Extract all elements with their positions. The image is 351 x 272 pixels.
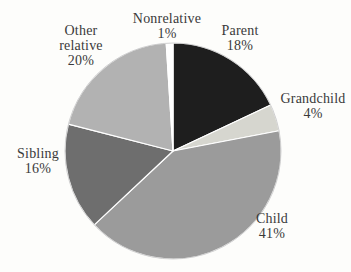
label-other-relative-name: Other relative (51, 23, 111, 53)
label-parent-name: Parent (222, 23, 259, 38)
label-nonrelative-value: 1% (133, 26, 201, 41)
label-nonrelative-name: Nonrelative (133, 11, 201, 26)
label-parent-value: 18% (222, 38, 259, 53)
label-child-value: 41% (256, 226, 288, 241)
label-grandchild-value: 4% (281, 106, 346, 121)
label-grandchild: Grandchild 4% (281, 91, 346, 121)
label-other-relative: Other relative 20% (51, 23, 111, 68)
label-child: Child 41% (256, 211, 288, 241)
label-grandchild-name: Grandchild (281, 91, 346, 106)
label-parent: Parent 18% (222, 23, 259, 53)
label-nonrelative: Nonrelative 1% (133, 11, 201, 41)
label-sibling-name: Sibling (17, 146, 59, 161)
label-other-relative-value: 20% (51, 53, 111, 68)
pie-chart-figure: Nonrelative 1% Parent 18% Grandchild 4% … (0, 0, 351, 272)
label-sibling-value: 16% (17, 161, 59, 176)
label-sibling: Sibling 16% (17, 146, 59, 176)
label-child-name: Child (256, 211, 288, 226)
